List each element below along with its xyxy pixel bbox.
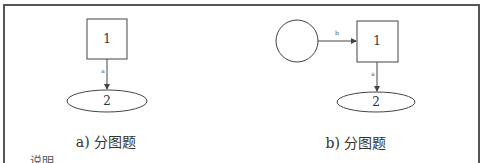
diagram-canvas: 1 a 2 b 1 a 2: [0, 0, 483, 163]
panel-b-edge-a-label: a: [371, 70, 375, 77]
panel-a-caption: a) 分图题: [76, 131, 136, 151]
panel-b-node-2-label: 2: [372, 95, 380, 109]
panel-b-edge-b-label: b: [335, 29, 339, 36]
panel-a-edge-a-label: a: [101, 67, 105, 74]
panel-b: b 1 a 2: [276, 20, 415, 112]
panel-b-node-1-label: 1: [373, 34, 381, 48]
panel-a-node-1-label: 1: [103, 32, 111, 46]
panel-b-circle-node: [276, 20, 318, 62]
panel-b-caption: b) 分图题: [326, 132, 387, 152]
panel-a: 1 a 2: [67, 19, 147, 112]
panel-a-node-2-label: 2: [103, 94, 111, 108]
footnote-text: 说明: [30, 152, 54, 163]
